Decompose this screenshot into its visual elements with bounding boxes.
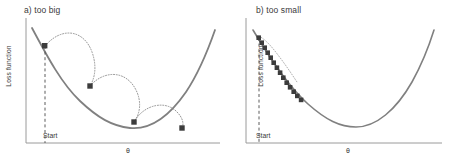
panel-b-step-marker-9	[281, 75, 286, 80]
panel-b-step-marker-10	[284, 80, 289, 85]
panel-b-step-marker-6	[271, 60, 276, 65]
panel-b-too-small: b) too small Loss function θ Start	[232, 0, 463, 162]
panel-a-plot	[0, 0, 231, 162]
panel-a-step-marker-2	[87, 83, 92, 88]
panel-b-step-marker-4	[265, 50, 270, 55]
panel-a-step-arc-3	[134, 105, 183, 128]
panel-b-plot	[232, 0, 463, 162]
panel-b-step-marker-14	[299, 98, 304, 103]
panel-b-step-marker-13	[295, 94, 300, 99]
panel-b-step-marker-12	[291, 89, 296, 94]
panel-b-step-marker-7	[275, 65, 280, 70]
panel-a-too-big: a) too big Loss function θ Start	[0, 0, 231, 162]
panel-b-step-marker-8	[278, 70, 283, 75]
panel-b-step-trace	[259, 36, 297, 82]
panel-a-step-arc-1	[45, 33, 95, 86]
panel-a-step-marker-3	[131, 119, 136, 124]
panel-b-step-marker-5	[268, 55, 273, 60]
panel-b-step-marker-1	[256, 35, 261, 40]
panel-b-loss-curve	[253, 30, 434, 127]
panel-b-step-marker-3	[262, 45, 267, 50]
panel-a-loss-curve	[32, 28, 215, 128]
panel-b-step-marker-2	[259, 40, 264, 45]
panel-a-step-marker-1	[42, 43, 47, 48]
panel-a-step-marker-4	[179, 125, 184, 130]
figure-gradient-descent-learning-rates: a) too big Loss function θ Start b) too	[0, 0, 463, 162]
panel-b-step-marker-11	[288, 85, 293, 90]
